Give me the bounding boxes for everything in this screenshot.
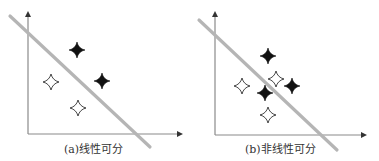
panel-nonlinearly-separable bbox=[199, 11, 367, 150]
hollow-star-icon bbox=[268, 71, 284, 87]
hollow-star-icon bbox=[260, 107, 276, 123]
caption-linearly-separable: (a)线性可分 bbox=[64, 140, 123, 156]
diagram-canvas bbox=[0, 0, 379, 161]
y-axis-arrow-icon bbox=[212, 11, 218, 17]
filled-star-icon bbox=[260, 48, 276, 64]
hollow-star-icon bbox=[43, 74, 59, 90]
x-axis-arrow-icon bbox=[177, 131, 183, 137]
y-axis-arrow-icon bbox=[25, 11, 31, 17]
decision-boundary-line bbox=[10, 16, 150, 147]
hollow-star-icon bbox=[234, 78, 250, 94]
decision-boundary-line bbox=[199, 20, 337, 150]
panel-linearly-separable bbox=[10, 11, 183, 147]
hollow-star-icon bbox=[70, 100, 86, 116]
filled-star-icon bbox=[94, 73, 110, 89]
filled-star-icon bbox=[69, 42, 85, 58]
x-axis-arrow-icon bbox=[361, 132, 367, 138]
filled-star-icon bbox=[284, 78, 300, 94]
caption-nonlinearly-separable: (b)非线性可分 bbox=[245, 140, 316, 156]
